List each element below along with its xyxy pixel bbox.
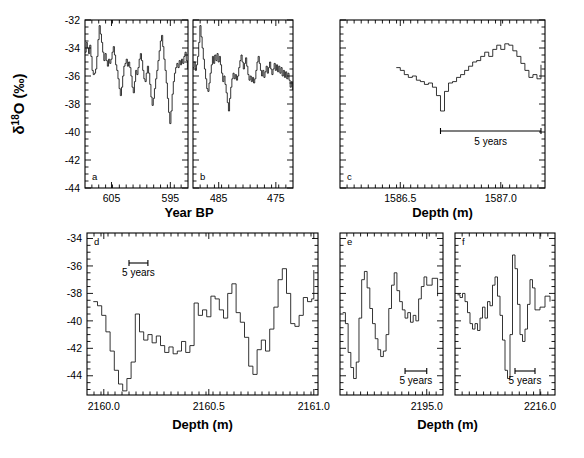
x-axis-title-c: Depth (m) xyxy=(412,205,473,220)
x-tick-label-c: 1586.5 xyxy=(384,192,416,204)
panel-d-scale-bar-label: 5 years xyxy=(122,267,155,278)
y-tick-label-top: -42 xyxy=(65,154,80,166)
y-tick-label-top: -40 xyxy=(65,126,80,138)
y-tick-label-bottom: -38 xyxy=(67,287,82,299)
y-axis-title-delta: δ xyxy=(10,125,27,134)
x-tick-label-a: 605 xyxy=(103,192,121,204)
panel-e-scale-bar-label: 5 years xyxy=(399,375,432,386)
panel-b-label: b xyxy=(200,171,205,182)
y-tick-label-bottom: -36 xyxy=(67,260,82,272)
panel-f-scale-bar xyxy=(515,368,535,374)
panel-c-frame xyxy=(340,20,545,188)
y-tick-label-top: -36 xyxy=(65,70,80,82)
panel-b xyxy=(193,20,293,188)
y-tick-label-bottom: -44 xyxy=(67,369,82,381)
panel-c-scale-bar-label: 5 years xyxy=(474,136,507,147)
panel-d-scale-bar xyxy=(129,260,148,266)
panel-b-data-line xyxy=(193,26,292,111)
y-axis-title-superscript: 18 xyxy=(10,114,21,126)
x-axis-title-top: Year BP xyxy=(164,205,213,220)
panel-e-scale-bar xyxy=(405,368,427,374)
panel-a-frame xyxy=(85,20,188,188)
panel-d-data-line xyxy=(93,269,313,391)
y-tick-label-bottom: -42 xyxy=(67,342,82,354)
y-tick-label-bottom: -34 xyxy=(67,232,82,244)
panel-b-frame xyxy=(193,20,293,188)
panel-f-label: f xyxy=(462,236,465,247)
x-tick-label-d: 2160.5 xyxy=(193,400,225,412)
x-tick-label-b: 485 xyxy=(210,192,228,204)
panel-f-scale-bar-label: 5 years xyxy=(509,375,542,386)
x-tick-label-f: 2216.0 xyxy=(524,400,556,412)
panel-e-frame xyxy=(340,233,443,395)
panel-e-label: e xyxy=(347,236,352,247)
panel-e-data-line xyxy=(343,271,438,378)
y-axis-title: δ18O (‰) xyxy=(10,73,28,134)
panel-c-scale-bar xyxy=(440,128,540,134)
panel-a-label: a xyxy=(92,171,98,182)
x-axis-title-d: Depth (m) xyxy=(172,417,233,432)
x-tick-label-d: 2160.0 xyxy=(88,400,120,412)
panel-c-data-line xyxy=(396,44,541,111)
multi-panel-isotope-figure: abcdef5 years5 years5 years5 years-32-34… xyxy=(0,0,584,458)
y-tick-label-top: -38 xyxy=(65,98,80,110)
panel-a-data-line xyxy=(85,26,187,124)
x-tick-label-e: 2195.0 xyxy=(411,400,443,412)
x-tick-label-a: 595 xyxy=(162,192,180,204)
x-axis-title-ef: Depth (m) xyxy=(417,417,478,432)
x-tick-label-c: 1587.0 xyxy=(485,192,517,204)
panel-d-label: d xyxy=(94,236,99,247)
panel-a xyxy=(85,20,188,188)
y-axis-title-rest: O (‰) xyxy=(10,73,27,114)
panel-c-label: c xyxy=(347,171,352,182)
x-tick-label-b: 475 xyxy=(267,192,285,204)
x-tick-label-d: 2161.0 xyxy=(298,400,330,412)
y-tick-label-bottom: -40 xyxy=(67,315,82,327)
y-tick-label-top: -44 xyxy=(65,182,80,194)
figure-canvas: abcdef5 years5 years5 years5 years-32-34… xyxy=(0,0,584,458)
panel-c xyxy=(340,20,545,188)
panel-e xyxy=(340,233,443,395)
y-tick-label-top: -34 xyxy=(65,42,80,54)
y-tick-label-top: -32 xyxy=(65,14,80,26)
panel-f-data-line xyxy=(458,255,551,379)
